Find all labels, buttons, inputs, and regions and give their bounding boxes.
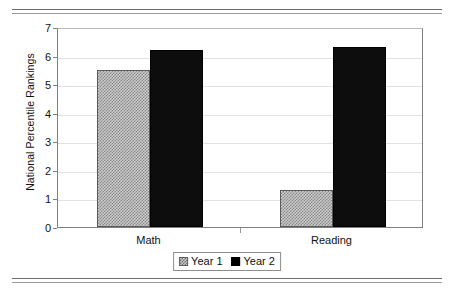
top-rule-lower xyxy=(12,13,442,14)
y-axis-tick-label: 4 xyxy=(21,108,51,120)
y-axis-tick-mark xyxy=(53,85,57,86)
plot-area xyxy=(57,28,423,228)
legend-entry-year-1: Year 1 xyxy=(179,255,222,267)
y-axis-tick-label: 0 xyxy=(21,222,51,234)
chart-legend: Year 1 Year 2 xyxy=(173,252,281,271)
y-axis-tick-label: 7 xyxy=(21,22,51,34)
y-axis-tick-mark xyxy=(53,57,57,58)
y-axis-tick-mark xyxy=(53,199,57,200)
x-axis-tick-mark xyxy=(240,228,241,233)
y-axis-tick-mark xyxy=(53,142,57,143)
figure-container: National Percentile Rankings 01234567 Ma… xyxy=(0,0,454,296)
legend-entry-year-2: Year 2 xyxy=(232,255,275,267)
y-axis-tick-label: 3 xyxy=(21,136,51,148)
bottom-rule-upper xyxy=(12,278,442,279)
y-axis-tick-label: 5 xyxy=(21,79,51,91)
legend-swatch-year-1-icon xyxy=(179,257,188,266)
y-axis-tick-mark xyxy=(53,228,57,229)
y-axis-tick-mark xyxy=(53,28,57,29)
bar-math-year-1 xyxy=(97,70,150,227)
y-axis-tick-label: 2 xyxy=(21,165,51,177)
legend-label-year-1: Year 1 xyxy=(191,255,222,267)
top-rule-upper xyxy=(12,9,442,10)
y-axis-tick-label: 1 xyxy=(21,193,51,205)
bar-reading-year-2 xyxy=(333,47,386,227)
legend-swatch-year-2-icon xyxy=(232,257,241,266)
x-axis-label-math: Math xyxy=(136,234,160,246)
y-axis-tick-mark xyxy=(53,171,57,172)
legend-label-year-2: Year 2 xyxy=(244,255,275,267)
y-axis-tick-label: 6 xyxy=(21,51,51,63)
x-axis-label-reading: Reading xyxy=(311,234,352,246)
bar-math-year-2 xyxy=(150,50,203,227)
bar-reading-year-1 xyxy=(280,190,333,227)
bottom-rule-lower xyxy=(12,282,442,283)
bar-chart: National Percentile Rankings 01234567 Ma… xyxy=(0,18,454,268)
y-axis-tick-mark xyxy=(53,114,57,115)
